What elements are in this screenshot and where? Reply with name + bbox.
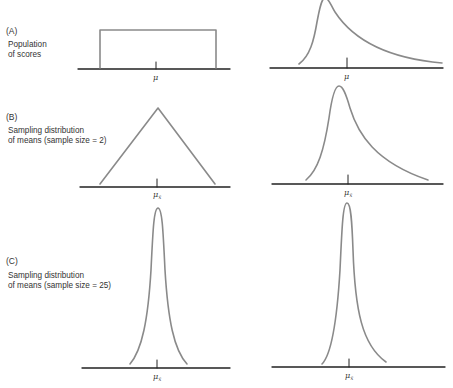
distribution-figure: μ μ μx̄ μx̄ μx̄ μx̄ (0, 0, 453, 388)
panel-a-right-plot (270, 0, 443, 68)
panel-c-right-mu-label: μx̄ (345, 371, 354, 381)
panel-b-left-xbar: x̄ (158, 194, 162, 200)
panel-a-left-mu-label: μ (153, 73, 158, 82)
panel-c-left-plot (82, 208, 230, 368)
panel-c-right-curve (322, 203, 386, 364)
panel-c-right-xbar: x̄ (350, 375, 354, 381)
panel-b-right-curve (306, 86, 428, 180)
panel-b-right-xbar: x̄ (349, 192, 353, 198)
panel-a-left-curve (100, 30, 216, 68)
panel-c-right-plot (272, 203, 445, 367)
panel-b-left-plot (80, 108, 230, 187)
panel-a-right-mu-label: μ (344, 72, 349, 81)
panel-a-left-plot (78, 30, 230, 69)
panel-a-right-curve (299, 0, 442, 64)
panel-b-left-curve (100, 108, 215, 184)
panel-c-left-xbar: x̄ (158, 376, 162, 382)
panel-c-left-curve (130, 208, 187, 364)
panel-b-right-plot (272, 86, 443, 184)
panel-b-left-mu-label: μx̄ (153, 190, 162, 200)
panel-b-right-mu-label: μx̄ (344, 188, 353, 198)
panel-c-left-mu-label: μx̄ (153, 372, 162, 382)
